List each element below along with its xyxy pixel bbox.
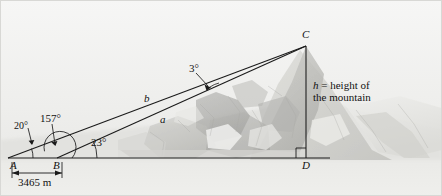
point-label-B: B — [53, 159, 60, 171]
side-label-a: a — [160, 113, 166, 125]
height-annotation-rest: = height of — [319, 79, 370, 91]
angle-label-3: 3° — [189, 62, 199, 74]
angle-label-20: 20° — [14, 120, 28, 131]
point-label-C: C — [302, 28, 309, 40]
angle-label-23: 23° — [91, 136, 106, 148]
point-label-D: D — [302, 159, 310, 171]
ground-shadow-dark — [120, 150, 300, 157]
side-label-b: b — [144, 92, 150, 104]
dimension-label-3465m: 3465 m — [18, 176, 51, 188]
height-annotation: h = height of the mountain — [313, 79, 371, 104]
figure-canvas — [0, 0, 442, 196]
point-label-A: A — [10, 159, 17, 171]
mountain-height-figure: A B C D 20° 157° 23° 3° b a 3465 m h = h… — [0, 0, 442, 196]
angle-label-157: 157° — [40, 112, 61, 124]
height-annotation-line2: the mountain — [313, 91, 371, 103]
